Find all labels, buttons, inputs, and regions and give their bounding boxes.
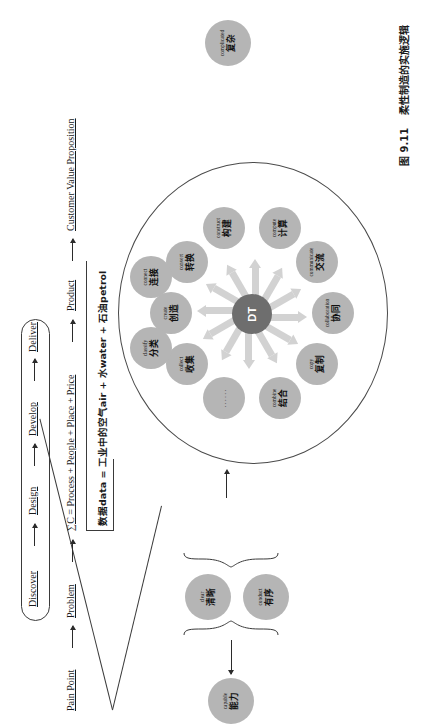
ring-node-collect[interactable]: collect 收集 [166, 343, 208, 385]
phase-item-develop[interactable]: Develop [28, 402, 38, 436]
node-label-en: complicated [220, 30, 225, 56]
ring-node-ellipsis[interactable]: ...... [203, 377, 245, 419]
ring-node-label-cn: 构建 [223, 219, 232, 237]
phase-item-discover[interactable]: Discover [28, 571, 38, 607]
ring-node-label-cn: 交流 [316, 253, 325, 271]
ring-node-label-en: convert [179, 254, 184, 270]
ring-node-copy[interactable]: copy 复制 [296, 343, 338, 385]
ring-node-label-cn: 计算 [279, 219, 288, 237]
ring-node-convert[interactable]: convert 转换 [166, 241, 208, 283]
ring-node-communicate[interactable]: communicate 交流 [296, 241, 338, 283]
value-item-pain-point[interactable]: Pain Point [66, 670, 76, 711]
value-arrow-4 [72, 239, 73, 261]
formula-leader-to-circle [113, 459, 114, 531]
ring-node-label-ellipsis: ...... [220, 388, 228, 407]
arrow-pair-to-capable [231, 640, 232, 674]
ring-node-label-en: collaboration [325, 299, 330, 328]
ring-node-label-cn: 协同 [332, 304, 341, 322]
value-arrow-1 [72, 626, 73, 648]
figure-canvas: Discover Design Develop Deliver Pain Poi… [0, 0, 423, 726]
ring-node-label-en: construct [216, 218, 221, 238]
ring-node-collaboration[interactable]: collaboration 协同 [312, 292, 354, 334]
ring-node-classify[interactable]: classify 分类 [130, 327, 172, 369]
outcome-node-clear[interactable]: clear 清晰 [185, 574, 231, 620]
ring-node-construct[interactable]: construct 构建 [203, 207, 245, 249]
ring-node-label-en: copy [309, 359, 314, 369]
ring-node-label-en: create [163, 307, 168, 320]
brace-upper [183, 620, 279, 636]
ring-node-compute[interactable]: compute 计算 [259, 207, 301, 249]
value-arrow-2 [72, 540, 73, 562]
ring-node-label-en: combine [272, 389, 277, 408]
brace-lower [183, 552, 279, 568]
outcome-node-complicated[interactable]: complicated 复杂 [205, 20, 251, 66]
ring-node-label-en: compute [272, 219, 277, 238]
value-arrow-3 [72, 320, 73, 342]
value-item-problem[interactable]: Problem [66, 584, 76, 618]
ring-node-label-en: classify [143, 340, 148, 357]
node-label-cn: 能力 [230, 692, 239, 710]
value-item-product[interactable]: Product [66, 280, 76, 311]
outcome-node-capable[interactable]: capable 能力 [208, 678, 254, 724]
phase-arrow-1 [34, 524, 35, 546]
ring-node-combine[interactable]: combine 结合 [259, 377, 301, 419]
arrow-ellipse-to-pair [226, 474, 227, 498]
value-item-sum-c[interactable]: ∑C = Process + People + Place + Price [66, 375, 76, 531]
node-label-en: conduct [258, 588, 263, 605]
formula-leader-horizontal [86, 261, 87, 531]
phase-arrow-3 [34, 359, 35, 381]
ring-node-label-cn: 结合 [279, 389, 288, 407]
ring-node-label-cn: 转换 [186, 253, 195, 271]
node-label-en: clear [200, 592, 205, 603]
ring-node-label-en: connect [143, 269, 148, 286]
ring-node-label-cn: 连接 [150, 268, 159, 286]
ring-node-label-en: collect [179, 357, 184, 372]
ring-node-connect[interactable]: connect 连接 [130, 256, 172, 298]
ring-node-label-cn: 分类 [150, 339, 159, 357]
node-label-cn: 清晰 [207, 588, 216, 606]
phase-item-deliver[interactable]: Deliver [28, 322, 38, 352]
node-label-cn: 复杂 [227, 34, 236, 52]
node-label-cn: 有序 [265, 588, 274, 606]
value-item-cvp[interactable]: Customer Value Proposition [66, 118, 76, 231]
ring-node-label-cn: 复制 [316, 355, 325, 373]
ring-node-label-en: communicate [309, 247, 314, 276]
formula-text: 数据data = 工业中的空气air + 水water + 石油petrol [98, 271, 108, 526]
outcome-node-conduct[interactable]: conduct 有序 [243, 574, 289, 620]
ring-node-label-cn: 创造 [170, 304, 179, 322]
guide-line-lower [112, 506, 162, 710]
phase-item-design[interactable]: Design [28, 487, 38, 515]
phase-arrow-2 [34, 444, 35, 466]
formula-leader-vertical [86, 530, 114, 531]
node-label-en: capable [223, 693, 228, 710]
core-node-dt[interactable]: DT [232, 294, 272, 334]
ring-node-label-cn: 收集 [186, 355, 195, 373]
